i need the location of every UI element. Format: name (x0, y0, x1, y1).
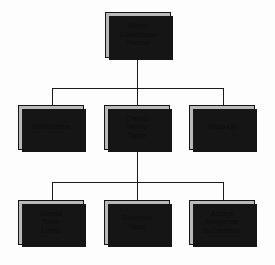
connector-drop-wrap-up (223, 88, 224, 105)
node-create-metric-table[interactable]: Create Metric Table (104, 105, 170, 150)
node-label: Generate Table (120, 214, 154, 231)
connector-root-stem (137, 58, 138, 105)
node-label: Wrap-Up (206, 123, 239, 131)
node-initialization[interactable]: Initialization (18, 105, 84, 150)
connector-create-metric-table-stem (137, 150, 138, 200)
node-accept-table-limits[interactable]: Accept Table Limits (18, 200, 84, 245)
node-accept-response-to-continue[interactable]: Accept Response to Continue (189, 200, 255, 245)
node-label: Initialization (30, 123, 72, 131)
node-generate-table[interactable]: Generate Table (104, 200, 170, 245)
node-label: Accept Response to Continue (201, 210, 242, 235)
connector-drop-initialization (52, 88, 53, 105)
connector-drop-accept-response (223, 182, 224, 200)
connector-level2-bus (52, 182, 224, 183)
node-wrap-up[interactable]: Wrap-Up (189, 105, 255, 150)
node-label: Metric Conversion Report (118, 22, 159, 47)
connector-drop-accept-table-limits (52, 182, 53, 200)
node-label: Create Metric Table (124, 115, 150, 140)
connector-level1-bus (52, 88, 224, 89)
node-label: Accept Table Limits (38, 210, 64, 235)
structure-chart-diagram: Metric Conversion Report Initialization … (0, 0, 275, 265)
node-metric-conversion-report[interactable]: Metric Conversion Report (105, 12, 171, 58)
